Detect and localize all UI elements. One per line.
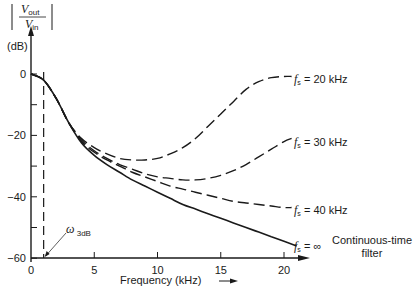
w3db-label: ω 3dB bbox=[66, 222, 91, 238]
x-tick-label: 5 bbox=[91, 264, 97, 276]
curve-3 bbox=[31, 74, 292, 208]
series-label: fs = 40 kHz bbox=[294, 203, 348, 217]
x-tick-label: 0 bbox=[28, 264, 34, 276]
y-axis-label: Vout Vin (dB) bbox=[7, 2, 52, 52]
curve-2 bbox=[31, 74, 292, 180]
y-label-numerator: Vout bbox=[21, 2, 40, 17]
y-unit-label: (dB) bbox=[7, 40, 28, 52]
ticks: 051015200−20−40−60ω 3dB bbox=[7, 68, 290, 276]
w3db-pointer bbox=[46, 233, 66, 256]
curve-4 bbox=[31, 74, 297, 246]
x-axis-label: Frequency (kHz) bbox=[120, 274, 201, 286]
series-label: fs = ∞ bbox=[294, 239, 321, 253]
series-label: fs = 20 kHz bbox=[294, 72, 348, 86]
continuous-note: Continuous-time bbox=[332, 234, 412, 246]
y-tick-label: 0 bbox=[20, 68, 26, 80]
frequency-response-chart: 051015200−20−40−60ω 3dB fs = 20 kHzfs = … bbox=[0, 0, 416, 297]
x-tick-label: 20 bbox=[278, 264, 290, 276]
x-tick-label: 15 bbox=[215, 264, 227, 276]
y-tick-label: −20 bbox=[7, 129, 26, 141]
x-axis-arrow-icon bbox=[298, 255, 310, 261]
labels: fs = 20 kHzfs = 30 kHzfs = 40 kHzfs = ∞C… bbox=[294, 72, 412, 259]
y-label-denominator: Vin bbox=[25, 17, 39, 32]
y-tick-label: −40 bbox=[7, 191, 26, 203]
x-label-arrow-icon bbox=[219, 279, 238, 284]
continuous-note: filter bbox=[362, 247, 383, 259]
curve-1 bbox=[31, 74, 292, 160]
series-label: fs = 30 kHz bbox=[294, 135, 348, 149]
curves bbox=[31, 74, 297, 246]
y-tick-label: −60 bbox=[7, 252, 26, 264]
